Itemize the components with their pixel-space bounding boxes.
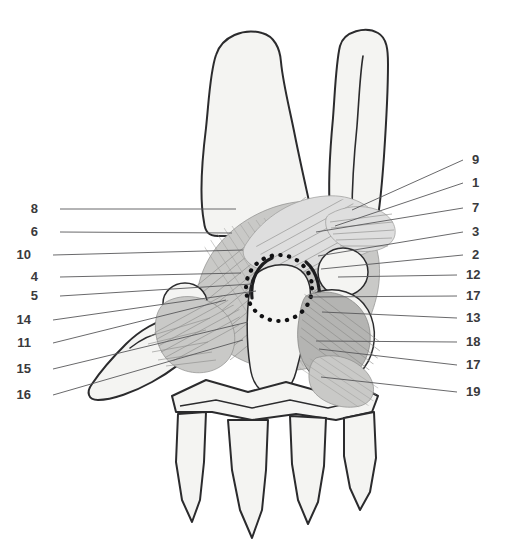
metacarpal-5	[344, 412, 376, 510]
labels-right: 91732121713181719	[466, 152, 480, 399]
label-number-16-left-8[interactable]: 16	[17, 387, 31, 402]
anatomical-figure: 86104514111516 91732121713181719	[0, 0, 511, 555]
label-number-12-right-5[interactable]: 12	[466, 267, 480, 282]
label-number-17-right-9[interactable]: 17	[466, 357, 480, 372]
label-number-14-left-5[interactable]: 14	[17, 312, 32, 327]
metacarpal-3	[228, 420, 268, 538]
wrist-ligament-diagram: 86104514111516 91732121713181719	[0, 0, 511, 555]
labels-left: 86104514111516	[17, 201, 39, 402]
label-number-10-left-2[interactable]: 10	[17, 247, 31, 262]
label-number-9-right-0[interactable]: 9	[472, 152, 479, 167]
label-number-13-right-7[interactable]: 13	[466, 310, 480, 325]
label-number-1-right-1[interactable]: 1	[472, 175, 479, 190]
label-number-5-left-4[interactable]: 5	[31, 288, 38, 303]
label-number-15-left-7[interactable]: 15	[17, 361, 31, 376]
label-number-8-left-0[interactable]: 8	[31, 201, 38, 216]
label-number-18-right-8[interactable]: 18	[466, 334, 480, 349]
label-number-11-left-6[interactable]: 11	[17, 335, 31, 350]
label-number-4-left-3[interactable]: 4	[31, 269, 39, 284]
label-number-2-right-4[interactable]: 2	[472, 247, 479, 262]
label-number-19-right-10[interactable]: 19	[466, 384, 480, 399]
metacarpal-4	[290, 416, 326, 524]
label-number-7-right-2[interactable]: 7	[472, 200, 479, 215]
label-number-6-left-1[interactable]: 6	[31, 224, 38, 239]
label-number-17-right-6[interactable]: 17	[466, 288, 480, 303]
metacarpal-2	[176, 412, 206, 522]
label-number-3-right-3[interactable]: 3	[472, 224, 479, 239]
